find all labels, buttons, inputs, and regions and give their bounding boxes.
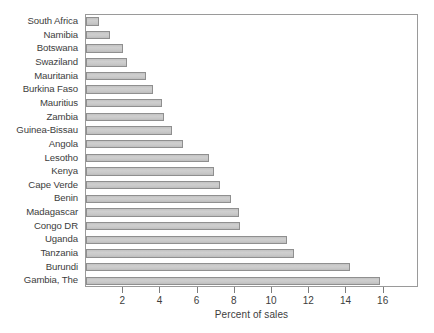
bar-row — [86, 111, 417, 125]
x-tick-mark — [308, 287, 309, 293]
bar — [86, 17, 99, 25]
bar — [86, 222, 240, 230]
bar — [86, 85, 153, 93]
x-tick-label: 8 — [231, 295, 237, 306]
category-label: Tanzania — [40, 246, 78, 260]
bar — [86, 277, 380, 285]
bar-row — [86, 29, 417, 43]
bar-row — [86, 15, 417, 29]
x-tick-label: 16 — [377, 295, 388, 306]
category-label: Benin — [54, 191, 78, 205]
x-tick-label: 6 — [194, 295, 200, 306]
x-tick-label: 10 — [265, 295, 276, 306]
bar-row — [86, 220, 417, 234]
category-label: Mauritania — [34, 69, 78, 83]
x-tick-label: 14 — [340, 295, 351, 306]
category-label: Angola — [49, 137, 78, 151]
category-label: Kenya — [51, 164, 78, 178]
category-label: Gambia, The — [24, 273, 78, 287]
x-tick-mark — [122, 287, 123, 293]
bar — [86, 140, 183, 148]
x-axis: 246810121416 — [85, 287, 418, 327]
bar-row — [86, 70, 417, 84]
category-label: Uganda — [45, 232, 78, 246]
bar-row — [86, 192, 417, 206]
bar — [86, 113, 164, 121]
bar-row — [86, 124, 417, 138]
bar-row — [86, 206, 417, 220]
category-label: Mauritius — [40, 96, 78, 110]
bar — [86, 208, 239, 216]
category-label: Congo DR — [34, 219, 78, 233]
bar — [86, 44, 123, 52]
bar-chart: South AfricaNamibiaBotswanaSwazilandMaur… — [0, 0, 434, 333]
bar — [86, 72, 146, 80]
category-label: Swaziland — [35, 55, 78, 69]
bar — [86, 263, 350, 271]
bar-row — [86, 83, 417, 97]
bar-row — [86, 179, 417, 193]
bar-row — [86, 152, 417, 166]
x-tick-mark — [271, 287, 272, 293]
category-label: Lesotho — [45, 151, 78, 165]
category-label: Namibia — [44, 28, 79, 42]
category-label: Guinea-Bissau — [16, 123, 78, 137]
bar — [86, 31, 110, 39]
bar-row — [86, 138, 417, 152]
x-tick-mark — [197, 287, 198, 293]
category-label: Madagascar — [26, 205, 78, 219]
category-label: Burundi — [46, 260, 78, 274]
bar-row — [86, 274, 417, 288]
x-tick-label: 12 — [303, 295, 314, 306]
bar — [86, 195, 231, 203]
category-label: Burkina Faso — [23, 82, 78, 96]
bar — [86, 249, 294, 257]
x-tick-mark — [345, 287, 346, 293]
bar-row — [86, 233, 417, 247]
bar-row — [86, 261, 417, 275]
y-axis-category-labels: South AfricaNamibiaBotswanaSwazilandMaur… — [0, 14, 82, 287]
bar-row — [86, 165, 417, 179]
plot-area — [85, 14, 418, 287]
x-tick-label: 4 — [157, 295, 163, 306]
bar — [86, 181, 220, 189]
bar-row — [86, 56, 417, 70]
bar-row — [86, 42, 417, 56]
category-label: Cape Verde — [28, 178, 78, 192]
category-label: Zambia — [47, 110, 78, 124]
bar — [86, 154, 209, 162]
bar-row — [86, 247, 417, 261]
x-tick-mark — [159, 287, 160, 293]
bar — [86, 167, 214, 175]
bar — [86, 58, 127, 66]
x-tick-mark — [383, 287, 384, 293]
category-label: South Africa — [27, 14, 78, 28]
x-tick-label: 2 — [119, 295, 125, 306]
x-axis-title: Percent of sales — [85, 309, 418, 320]
bar — [86, 236, 287, 244]
bar — [86, 99, 162, 107]
bar-row — [86, 97, 417, 111]
x-tick-mark — [234, 287, 235, 293]
bar — [86, 126, 172, 134]
category-label: Botswana — [37, 41, 78, 55]
